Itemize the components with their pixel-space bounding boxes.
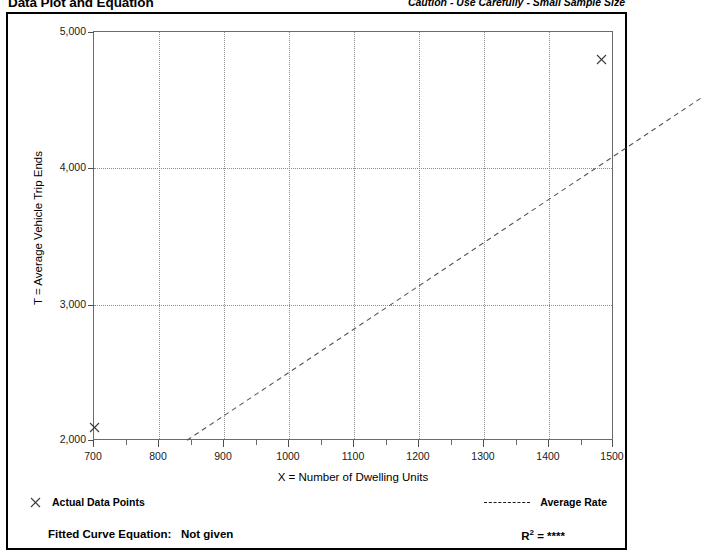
data-point-marker <box>596 54 607 65</box>
chart-legend: Actual Data Points Average Rate <box>8 496 625 518</box>
y-tick-label: 4,000 <box>42 161 86 173</box>
x-tick-major <box>93 440 94 447</box>
r-squared-result: **** <box>547 530 565 542</box>
data-point-marker <box>89 422 100 433</box>
gridline-horizontal <box>94 168 612 169</box>
x-tick-minor <box>581 440 582 445</box>
x-axis-title: X = Number of Dwelling Units <box>93 471 613 483</box>
chart-footer: Fitted Curve Equation: Not given R2 = **… <box>8 528 625 548</box>
x-tick-major <box>288 440 289 447</box>
legend-label-average-rate: Average Rate <box>540 496 607 508</box>
x-tick-label: 1300 <box>456 450 510 462</box>
y-tick-label: 3,000 <box>42 298 86 310</box>
legend-item-average-rate: Average Rate <box>484 496 607 508</box>
x-tick-label: 700 <box>66 450 120 462</box>
fitted-curve-equation: Fitted Curve Equation: Not given <box>48 528 233 540</box>
gridline-vertical <box>484 32 485 439</box>
x-tick-label: 1500 <box>585 450 639 462</box>
gridline-vertical <box>224 32 225 439</box>
x-tick-label: 900 <box>196 450 250 462</box>
average-rate-trendline <box>187 63 705 472</box>
x-tick-label: 800 <box>131 450 185 462</box>
legend-label-data-points: Actual Data Points <box>52 496 145 508</box>
x-tick-minor <box>321 440 322 445</box>
x-tick-major <box>612 440 613 447</box>
dashed-line-icon <box>484 502 530 503</box>
gridline-horizontal <box>94 305 612 306</box>
y-tick-label: 2,000 <box>42 433 86 445</box>
x-cross-icon <box>30 497 41 508</box>
x-tick-minor <box>256 440 257 445</box>
x-tick-major <box>418 440 419 447</box>
y-tick-label: 5,000 <box>42 25 86 37</box>
x-tick-major <box>548 440 549 447</box>
x-tick-minor <box>386 440 387 445</box>
x-tick-minor <box>516 440 517 445</box>
x-tick-major <box>353 440 354 447</box>
y-tick <box>88 305 94 306</box>
x-tick-minor <box>126 440 127 445</box>
plot-frame <box>93 31 613 440</box>
gridline-vertical <box>549 32 550 439</box>
x-tick-minor <box>191 440 192 445</box>
gridline-vertical <box>289 32 290 439</box>
y-tick <box>88 32 94 33</box>
x-tick-major <box>223 440 224 447</box>
gridline-vertical <box>159 32 160 439</box>
x-tick-label: 1400 <box>521 450 575 462</box>
r-squared-equals: = <box>534 530 547 542</box>
r-squared-value: R2 = **** <box>521 528 565 542</box>
x-tick-label: 1200 <box>391 450 445 462</box>
x-tick-minor <box>451 440 452 445</box>
gridline-vertical <box>419 32 420 439</box>
y-axis-title: T = Average Vehicle Trip Ends <box>32 118 44 338</box>
legend-item-data-points: Actual Data Points <box>30 496 145 508</box>
fitted-curve-label: Fitted Curve Equation: <box>48 528 171 540</box>
fitted-curve-value: Not given <box>181 528 233 540</box>
y-tick <box>88 168 94 169</box>
x-tick-major <box>483 440 484 447</box>
x-axis-labels: 700 800 900 1000 1100 1200 1300 1400 150… <box>93 450 613 466</box>
x-tick-label: 1100 <box>326 450 380 462</box>
gridline-vertical <box>354 32 355 439</box>
x-tick-label: 1000 <box>261 450 315 462</box>
x-tick-major <box>158 440 159 447</box>
x-axis-ticks <box>93 440 613 448</box>
r-squared-label: R <box>521 530 529 542</box>
